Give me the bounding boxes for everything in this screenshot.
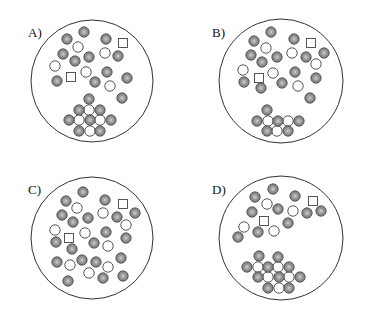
open-circle-particle — [81, 67, 91, 77]
square-particle — [119, 39, 128, 48]
square-particle — [307, 39, 316, 48]
filled-circle-particle — [305, 93, 315, 103]
open-circle-particle — [288, 206, 298, 216]
open-circle-particle — [238, 65, 248, 75]
filled-circle-particle — [121, 233, 131, 243]
filled-circle-particle — [257, 57, 267, 67]
open-circle-particle — [72, 203, 82, 213]
filled-circle-particle — [283, 218, 293, 228]
open-circle-particle — [268, 68, 278, 78]
filled-circle-particle — [68, 217, 78, 227]
open-circle-particle — [50, 61, 60, 71]
open-circle-particle — [100, 48, 110, 58]
square-particle — [67, 73, 76, 82]
open-circle-particle — [50, 225, 60, 235]
filled-circle-particle — [263, 262, 273, 272]
filled-circle-particle — [252, 116, 262, 126]
filled-circle-particle — [301, 52, 311, 62]
filled-circle-particle — [91, 257, 101, 267]
filled-circle-particle — [118, 271, 128, 281]
open-circle-particle — [311, 59, 321, 69]
particle-diagrams: A)B)C)D) — [0, 0, 366, 320]
filled-circle-particle — [83, 213, 93, 223]
open-circle-particle — [103, 262, 113, 272]
filled-circle-particle — [95, 105, 105, 115]
filled-circle-particle — [319, 48, 329, 58]
panel-d: D) — [212, 176, 343, 300]
filled-circle-particle — [58, 49, 68, 59]
filled-circle-particle — [116, 253, 126, 263]
open-circle-particle — [284, 272, 294, 282]
filled-circle-particle — [239, 77, 249, 87]
open-circle-particle — [262, 199, 272, 209]
filled-circle-particle — [294, 116, 304, 126]
panel-label: B) — [212, 25, 225, 40]
filled-circle-particle — [57, 210, 67, 220]
filled-circle-particle — [67, 244, 77, 254]
square-particle — [255, 74, 264, 83]
open-circle-particle — [121, 220, 131, 230]
open-circle-particle — [287, 48, 297, 58]
filled-circle-particle — [78, 187, 88, 197]
filled-circle-particle — [117, 93, 127, 103]
filled-circle-particle — [85, 115, 95, 125]
open-circle-particle — [84, 105, 94, 115]
filled-circle-particle — [74, 105, 84, 115]
filled-circle-particle — [256, 83, 266, 93]
open-circle-particle — [253, 262, 263, 272]
open-circle-particle — [272, 126, 282, 136]
open-circle-particle — [293, 81, 303, 91]
filled-circle-particle — [289, 34, 299, 44]
filled-circle-particle — [295, 272, 305, 282]
filled-circle-particle — [316, 206, 326, 216]
filled-circle-particle — [79, 27, 89, 37]
open-circle-particle — [263, 272, 273, 282]
filled-circle-particle — [253, 227, 263, 237]
filled-circle-particle — [62, 34, 72, 44]
filled-circle-particle — [52, 257, 62, 267]
filled-circle-particle — [274, 272, 284, 282]
filled-circle-particle — [268, 184, 278, 194]
filled-circle-particle — [106, 115, 116, 125]
open-circle-particle — [98, 208, 108, 218]
panel-b: B) — [212, 19, 343, 143]
filled-circle-particle — [263, 283, 273, 293]
filled-circle-particle — [311, 73, 321, 83]
open-circle-particle — [261, 43, 271, 53]
filled-circle-particle — [290, 191, 300, 201]
filled-circle-particle — [52, 76, 62, 86]
filled-circle-particle — [77, 255, 87, 265]
filled-circle-particle — [51, 237, 61, 247]
panel-a: A) — [28, 20, 153, 142]
filled-circle-particle — [273, 252, 283, 262]
filled-circle-particle — [277, 78, 287, 88]
filled-circle-particle — [84, 52, 94, 62]
open-circle-particle — [263, 116, 273, 126]
filled-circle-particle — [253, 272, 263, 282]
square-particle — [65, 234, 74, 243]
panel-c: C) — [28, 177, 153, 299]
filled-circle-particle — [95, 126, 105, 136]
filled-circle-particle — [242, 262, 252, 272]
open-circle-particle — [274, 283, 284, 293]
open-circle-particle — [73, 42, 83, 52]
panel-label: C) — [28, 182, 41, 197]
panel-label: D) — [212, 182, 226, 197]
filled-circle-particle — [90, 77, 100, 87]
open-circle-particle — [105, 81, 115, 91]
filled-circle-particle — [283, 126, 293, 136]
open-circle-particle — [80, 228, 90, 238]
filled-circle-particle — [112, 212, 122, 222]
filled-circle-particle — [113, 51, 123, 61]
filled-circle-particle — [101, 227, 111, 237]
filled-circle-particle — [102, 67, 112, 77]
open-circle-particle — [103, 241, 113, 251]
filled-circle-particle — [246, 50, 256, 60]
open-circle-particle — [283, 116, 293, 126]
open-circle-particle — [84, 268, 94, 278]
filled-circle-particle — [63, 276, 73, 286]
filled-circle-particle — [98, 273, 108, 283]
filled-circle-particle — [122, 73, 132, 83]
filled-circle-particle — [64, 115, 74, 125]
filled-circle-particle — [302, 208, 312, 218]
